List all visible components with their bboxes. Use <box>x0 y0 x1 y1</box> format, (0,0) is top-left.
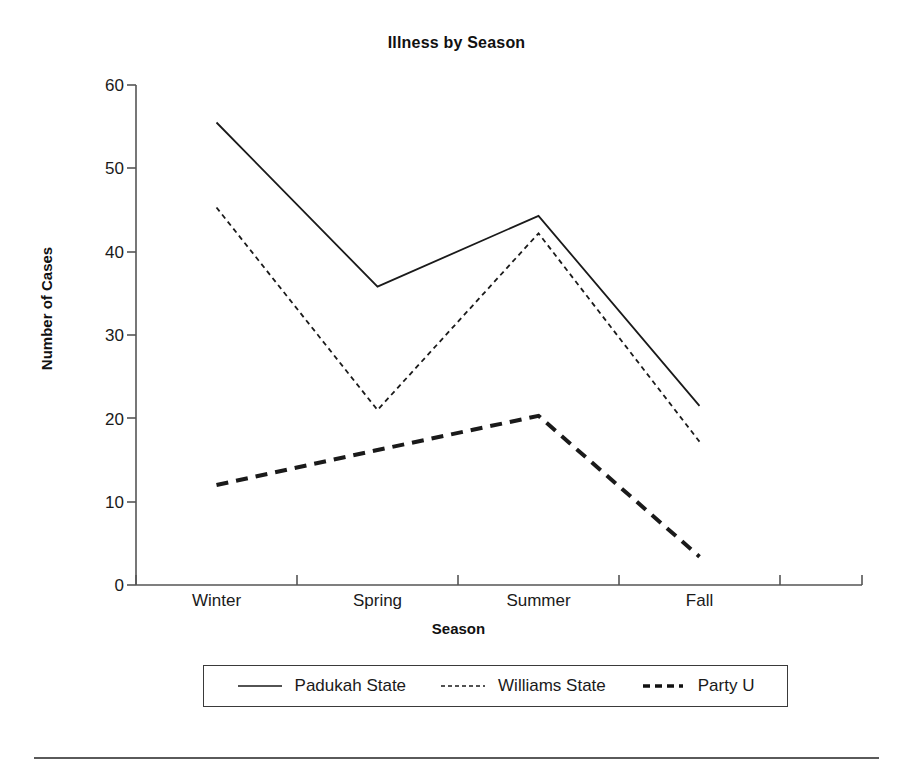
series-line-padukah-state <box>217 123 700 406</box>
series-line-williams-state <box>217 208 700 442</box>
legend-label-williams-state: Williams State <box>498 676 606 696</box>
legend-label-padukah-state: Padukah State <box>295 676 407 696</box>
solid-line-swatch <box>237 680 283 692</box>
series-line-party-u <box>217 416 700 557</box>
plot-area: Number of Cases Season 60 50 40 30 20 10… <box>0 0 913 660</box>
chart-figure: Illness by Season Number of Cases Season… <box>0 0 913 772</box>
series-layer <box>217 123 700 557</box>
plot-svg <box>0 0 913 660</box>
chart-legend: Padukah State Williams State Party U <box>203 665 788 707</box>
legend-entry-party-u: Party U <box>640 676 755 696</box>
dotted-line-swatch <box>440 680 486 692</box>
y-tick-marks <box>127 85 136 585</box>
legend-entry-williams-state: Williams State <box>440 676 606 696</box>
legend-label-party-u: Party U <box>698 676 755 696</box>
legend-entry-padukah-state: Padukah State <box>237 676 407 696</box>
dashed-line-swatch <box>640 680 686 692</box>
footer-divider <box>34 757 879 759</box>
x-tick-marks <box>136 575 862 585</box>
